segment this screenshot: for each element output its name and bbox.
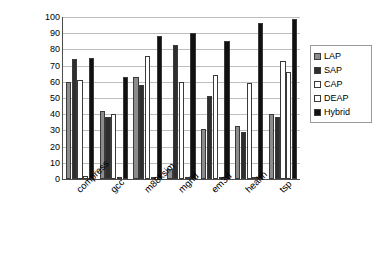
bar-lap-compress: [66, 82, 71, 179]
bar-hybrid-tsp: [292, 19, 297, 179]
legend-swatch-icon: [314, 81, 321, 88]
bar-hybrid-health: [258, 23, 263, 179]
bar-hybrid-m88ksim: [157, 36, 162, 179]
y-axis-tick-label: 70: [34, 62, 60, 71]
bar-cap-compress: [77, 80, 82, 179]
y-axis-tick-label: 30: [34, 126, 60, 135]
y-axis-tick-label: 60: [34, 78, 60, 87]
bar-hybrid-em3d: [224, 41, 229, 179]
legend-item-cap[interactable]: CAP: [314, 77, 369, 91]
legend-item-label: DEAP: [324, 93, 349, 103]
y-axis-tick-label: 90: [34, 29, 60, 38]
bar-hybrid-mgrid: [190, 33, 195, 179]
legend-swatch-icon: [314, 109, 321, 116]
legend-item-sap[interactable]: SAP: [314, 63, 369, 77]
y-axis-tick-labels: 0102030405060708090100: [30, 17, 60, 180]
legend-item-hybrid[interactable]: Hybrid: [314, 105, 369, 119]
bar-chart: % Dynamic Loads Covered 0102030405060708…: [0, 0, 380, 254]
legend-swatch-icon: [314, 53, 321, 60]
legend-item-label: SAP: [324, 65, 342, 75]
y-axis-tick-label: 50: [34, 94, 60, 103]
y-axis-tick-label: 20: [34, 143, 60, 152]
legend-swatch-icon: [314, 67, 321, 74]
legend-swatch-icon: [314, 95, 321, 102]
legend-item-label: LAP: [324, 51, 341, 61]
bar-group-compress: [63, 17, 97, 179]
legend-item-deap[interactable]: DEAP: [314, 91, 369, 105]
chart-legend: LAPSAPCAPDEAPHybrid: [310, 45, 372, 123]
legend-item-lap[interactable]: LAP: [314, 49, 369, 63]
y-axis-tick-label: 100: [34, 13, 60, 22]
bar-hybrid-compress: [89, 58, 94, 180]
bar-hybrid-gcc: [123, 77, 128, 179]
bar-deap-tsp: [286, 72, 291, 179]
y-axis-tick-label: 80: [34, 45, 60, 54]
x-axis-tick-labels: compressgccm88ksimmgridem3dhealthtsp: [63, 181, 300, 251]
legend-item-label: CAP: [324, 79, 343, 89]
y-axis-tick-label: 10: [34, 159, 60, 168]
y-axis-tick-label: 40: [34, 110, 60, 119]
legend-item-label: Hybrid: [324, 107, 350, 117]
y-axis-tick-label: 0: [34, 175, 60, 184]
bar-cap-health: [247, 83, 252, 179]
bar-sap-compress: [72, 59, 77, 179]
